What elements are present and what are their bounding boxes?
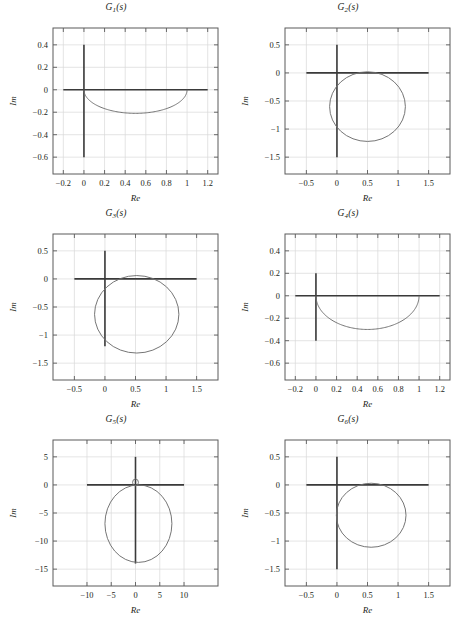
tick-marks: [285, 234, 450, 380]
x-tick-labels: −0.500.511.5: [67, 385, 202, 394]
y-tick-label: 0.4: [270, 247, 281, 256]
y-tick-label: 0: [44, 481, 48, 490]
x-tick-label: 0: [335, 179, 339, 188]
plot-panel-g5: G5(s)−10−50510−15−10−505ReIm: [0, 412, 232, 618]
y-tick-label: −0.2: [33, 108, 48, 117]
x-tick-label: 0.5: [130, 385, 140, 394]
y-tick-label: −0.6: [33, 153, 48, 162]
x-tick-label: 1.2: [434, 385, 444, 394]
x-tick-label: 1.5: [423, 591, 433, 600]
plot-canvas-g4: −0.200.20.40.60.811.2−0.6−0.4−0.200.20.4…: [232, 206, 464, 412]
y-tick-label: 0.2: [38, 63, 48, 72]
nyquist-locus: [336, 483, 406, 547]
x-axis-label: Re: [362, 399, 373, 409]
plot-frame: [53, 28, 218, 174]
y-tick-label: −1.5: [265, 565, 280, 574]
x-tick-label: −0.5: [67, 385, 82, 394]
gridlines: [285, 440, 450, 586]
nyquist-figure: G1(s)−0.200.20.40.60.811.2−0.6−0.4−0.200…: [0, 0, 464, 618]
x-tick-label: −0.5: [299, 591, 314, 600]
y-axis-label: Im: [240, 302, 250, 313]
y-tick-labels: −1.5−1−0.500.5: [33, 247, 48, 368]
x-tick-label: 0.4: [120, 179, 131, 188]
y-axis-label: Im: [240, 508, 250, 519]
y-tick-label: 0.4: [38, 41, 49, 50]
x-tick-label: 0: [82, 179, 86, 188]
y-tick-labels: −0.6−0.4−0.200.20.4: [265, 247, 281, 368]
x-tick-label: 0: [133, 591, 137, 600]
y-tick-label: 0.5: [270, 453, 280, 462]
tick-marks: [53, 28, 218, 174]
x-tick-label: −0.5: [299, 179, 314, 188]
plot-panel-g1: G1(s)−0.200.20.40.60.811.2−0.6−0.4−0.200…: [0, 0, 232, 206]
x-tick-label: 0.2: [331, 385, 341, 394]
plot-panel-g2: G2(s)−0.500.511.5−1.5−1−0.500.5ReIm: [232, 0, 464, 206]
x-tick-label: 1: [164, 385, 168, 394]
y-tick-label: −0.2: [265, 314, 280, 323]
plot-panel-g3: G3(s)−0.500.511.5−1.5−1−0.500.5ReIm: [0, 206, 232, 412]
x-tick-label: 0.5: [362, 179, 372, 188]
locus-arc: [316, 296, 419, 330]
nyquist-locus: [84, 90, 187, 114]
y-tick-labels: −1.5−1−0.500.5: [265, 453, 280, 574]
x-tick-label: 0.8: [161, 179, 171, 188]
x-tick-label: 1: [417, 385, 421, 394]
gridlines: [285, 28, 450, 174]
plot-canvas-g6: −0.500.511.5−1.5−1−0.500.5ReIm: [232, 412, 464, 618]
nyquist-axis-lines: [295, 273, 439, 340]
y-tick-label: 0: [44, 275, 48, 284]
y-tick-label: −0.4: [33, 131, 49, 140]
y-tick-label: −0.5: [265, 509, 280, 518]
x-axis-label: Re: [362, 605, 373, 615]
y-tick-label: −1: [271, 125, 280, 134]
x-tick-label: 0.6: [373, 385, 383, 394]
nyquist-axis-lines: [63, 45, 207, 157]
x-axis-label: Re: [130, 193, 141, 203]
locus-arc: [84, 90, 187, 114]
plot-panel-g4: G4(s)−0.200.20.40.60.811.2−0.6−0.4−0.200…: [232, 206, 464, 412]
y-axis-label: Im: [240, 96, 250, 107]
plot-canvas-g5: −10−50510−15−10−505ReIm: [0, 412, 232, 618]
y-tick-label: −1: [271, 537, 280, 546]
y-tick-label: −5: [39, 509, 48, 518]
y-tick-label: −1.5: [265, 153, 280, 162]
y-tick-label: 0.2: [270, 269, 280, 278]
x-tick-label: 1.5: [191, 385, 201, 394]
y-axis-label: Im: [8, 96, 18, 107]
y-tick-labels: −1.5−1−0.500.5: [265, 41, 280, 162]
x-tick-label: 0.8: [393, 385, 403, 394]
x-tick-label: 0: [335, 591, 339, 600]
x-axis-label: Re: [130, 605, 141, 615]
plot-panel-g6: G6(s)−0.500.511.5−1.5−1−0.500.5ReIm: [232, 412, 464, 618]
x-tick-labels: −0.200.20.40.60.811.2: [288, 385, 445, 394]
y-tick-labels: −0.6−0.4−0.200.20.4: [33, 41, 49, 162]
x-tick-label: 10: [180, 591, 188, 600]
plot-canvas-g1: −0.200.20.40.60.811.2−0.6−0.4−0.200.20.4…: [0, 0, 232, 206]
x-tick-label: 1: [396, 179, 400, 188]
y-tick-label: 0: [276, 481, 280, 490]
x-tick-label: 1: [396, 591, 400, 600]
y-tick-label: −0.5: [33, 303, 48, 312]
y-tick-label: −1: [39, 331, 48, 340]
x-tick-labels: −0.500.511.5: [299, 591, 434, 600]
x-tick-label: 5: [158, 591, 162, 600]
y-tick-label: −10: [35, 537, 48, 546]
locus-circle: [105, 485, 172, 562]
plot-canvas-g2: −0.500.511.5−1.5−1−0.500.5ReIm: [232, 0, 464, 206]
x-tick-labels: −0.500.511.5: [299, 179, 434, 188]
x-tick-label: −0.2: [288, 385, 303, 394]
x-tick-labels: −0.200.20.40.60.811.2: [56, 179, 213, 188]
gridlines: [285, 234, 450, 380]
y-tick-label: −0.4: [265, 337, 281, 346]
x-tick-label: 1.5: [423, 179, 433, 188]
x-tick-label: −5: [107, 591, 116, 600]
x-tick-label: −10: [80, 591, 93, 600]
locus-circle: [336, 483, 406, 547]
y-tick-label: 0: [44, 86, 48, 95]
gridlines: [53, 234, 218, 380]
nyquist-locus: [105, 479, 172, 562]
x-tick-label: 0: [314, 385, 318, 394]
y-tick-label: −15: [35, 565, 48, 574]
x-tick-label: 1.2: [202, 179, 212, 188]
y-tick-label: 0: [276, 69, 280, 78]
